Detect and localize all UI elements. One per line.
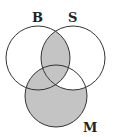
- venn-diagram: B S M: [0, 0, 113, 137]
- label-s: S: [68, 10, 77, 25]
- label-m: M: [83, 120, 97, 135]
- label-b: B: [32, 10, 43, 25]
